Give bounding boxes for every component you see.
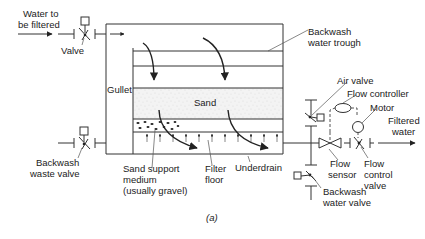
- leader-backwash-trough: [268, 30, 308, 51]
- label-sand-support-1: Sand support: [123, 163, 180, 174]
- flow-control-valve-icon: [354, 137, 364, 149]
- backwash-waste-pipe: [58, 138, 106, 148]
- inlet-flow: [18, 29, 124, 39]
- label-flow-sensor-2: sensor: [328, 169, 357, 180]
- filter-tank: [106, 24, 283, 154]
- label-motor: Motor: [370, 102, 394, 113]
- label-backwash-trough-2: water trough: [307, 37, 361, 48]
- label-filter-floor-2: floor: [205, 174, 223, 185]
- backwash-waste-valve-icon: [78, 127, 90, 158]
- label-flow-controller: Flow controller: [347, 88, 409, 99]
- label-water-to-be-filtered-1: Water to: [23, 8, 59, 19]
- gravel-layer: [136, 121, 179, 130]
- label-sand: Sand: [194, 97, 216, 108]
- label-flow-control-valve-2: control: [364, 169, 393, 180]
- inlet-valve-icon: [79, 17, 90, 45]
- backwash-water-valve-icon: [294, 171, 321, 188]
- label-underdrain: Underdrain: [235, 162, 282, 173]
- label-flow-control-valve-3: valve: [364, 180, 386, 191]
- label-filter-floor-1: Filter: [205, 163, 226, 174]
- motor-icon: [353, 109, 377, 138]
- rapid-sand-filter-diagram: Water to be filtered Valve: [0, 0, 425, 239]
- label-air-valve: Air valve: [337, 75, 373, 86]
- label-filtered-water-2: water: [391, 126, 415, 137]
- label-sand-support-2: medium: [123, 174, 157, 185]
- figure-label: (a): [206, 212, 218, 223]
- label-valve: Valve: [61, 45, 84, 56]
- label-backwash-water-valve-1: Backwash: [323, 186, 366, 197]
- leader-flow-control-valve: [361, 147, 368, 158]
- label-backwash-waste-valve-2: waste valve: [29, 168, 80, 179]
- label-sand-support-3: (usually gravel): [123, 185, 187, 196]
- label-flow-sensor-1: Flow: [330, 158, 350, 169]
- label-water-to-be-filtered-2: be filtered: [18, 19, 60, 30]
- flow-sensor-icon: [319, 132, 341, 148]
- label-flow-control-valve-1: Flow: [364, 158, 384, 169]
- leader-filter-floor: [208, 140, 212, 165]
- label-gullet: Gullet: [107, 84, 132, 95]
- label-backwash-water-valve-2: water valve: [322, 197, 371, 208]
- label-backwash-waste-valve-1: Backwash: [36, 157, 79, 168]
- underdrain-arrows: [147, 134, 277, 142]
- label-filtered-water-1: Filtered: [388, 115, 420, 126]
- label-backwash-trough-1: Backwash: [308, 26, 351, 37]
